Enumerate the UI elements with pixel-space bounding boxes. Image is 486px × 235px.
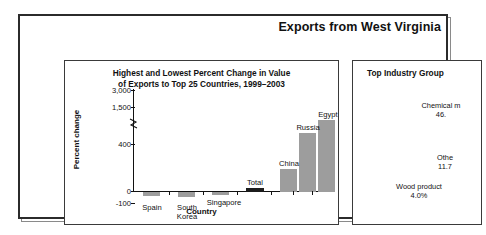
pie-label-chemical: Chemical m 46.	[391, 101, 486, 119]
bar-chart-panel: Highest and Lowest Percent Change in Val…	[64, 60, 339, 225]
y-axis-title: Percent change	[72, 100, 81, 180]
axis-break-icon	[129, 117, 139, 130]
pie-label-chemical-value: 46.	[436, 110, 446, 119]
pie-label-other: Othe 11.7	[405, 153, 485, 171]
bar-china	[280, 169, 297, 192]
pie-label-chemical-name: Chemical m	[421, 101, 460, 110]
bar-label-total: Total	[232, 178, 278, 187]
bar-label-china: China	[264, 159, 314, 168]
y-axis-line	[133, 89, 134, 192]
y-tickmark	[131, 107, 135, 108]
x-axis-title: Country	[65, 207, 338, 216]
pie-label-other-name: Othe	[437, 153, 453, 162]
document-header-title: Exports from West Virginia	[20, 20, 441, 34]
y-tick-label: 1,500	[87, 103, 131, 112]
pie-label-wood-value: 4.0%	[411, 191, 428, 200]
y-tick-label: 400	[87, 140, 131, 149]
bar-chart: Percent change 3,000 1,500 400 0 -100	[65, 61, 338, 224]
bar-singapore	[212, 192, 229, 195]
bar-label-russia: Russia	[281, 123, 335, 132]
x-tickmark	[203, 191, 204, 195]
bar-total	[246, 188, 264, 192]
bar-south-korea	[178, 192, 195, 197]
x-tickmark	[237, 191, 238, 195]
y-tickmark	[131, 191, 135, 192]
document-frame: Exports from West Virginia Highest and L…	[18, 14, 448, 219]
pie-label-wood: Wood product 4.0%	[367, 182, 471, 200]
bar-spain	[143, 192, 160, 196]
bar-label-egypt: Egypt	[303, 110, 353, 119]
x-tickmark	[293, 191, 294, 195]
x-tickmark	[271, 191, 272, 195]
x-tickmark	[169, 191, 170, 195]
industry-groups-panel: Top Industry Group Chemical m 46. Othe 1…	[352, 60, 482, 225]
y-axis-ticks: 3,000 1,500 400 0 -100	[87, 61, 131, 226]
y-tickmark	[131, 144, 135, 145]
pie-label-other-value: 11.7	[438, 162, 452, 171]
y-tickmark	[131, 90, 135, 91]
x-tickmark	[312, 191, 313, 195]
industry-pie-chart: Chemical m 46. Othe 11.7 Wood product 4.…	[353, 61, 481, 224]
y-tick-label: 3,000	[87, 86, 131, 95]
y-tick-label: 0	[87, 187, 131, 196]
pie-label-wood-name: Wood product	[396, 182, 442, 191]
